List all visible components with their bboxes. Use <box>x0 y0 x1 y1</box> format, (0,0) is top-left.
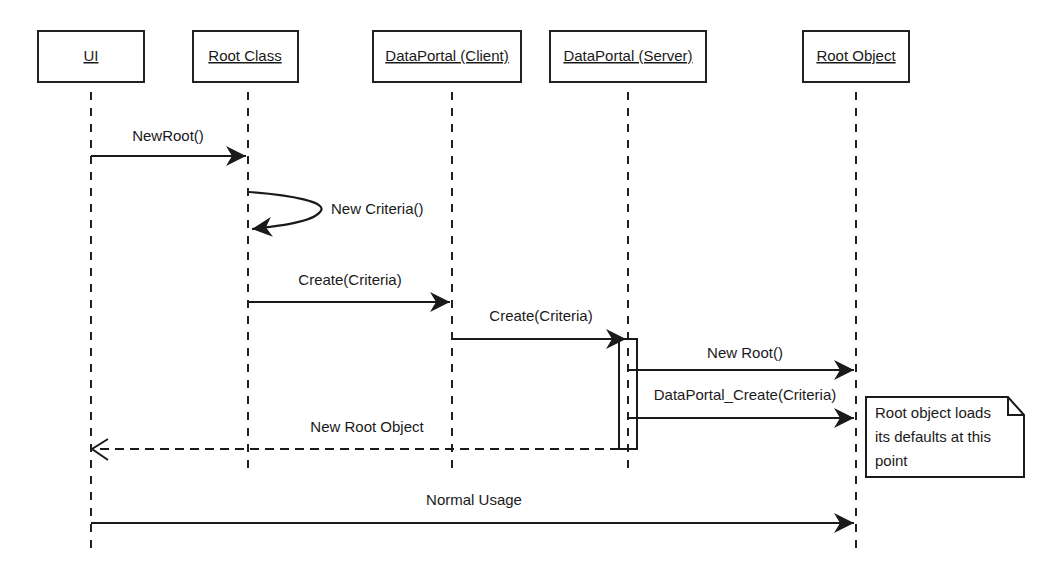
participant-dataportal-server: DataPortal (Server) <box>550 31 706 82</box>
note-line-1: Root object loads <box>875 404 991 421</box>
message-label: New Root() <box>707 344 783 361</box>
message-label: New Root Object <box>310 418 424 435</box>
message-create-criteria-server: Create(Criteria) <box>452 307 626 339</box>
message-label: New Criteria() <box>331 200 424 217</box>
participant-ui: UI <box>38 31 144 82</box>
message-return-new-root-object: New Root Object <box>92 418 619 460</box>
message-dataportal-create: DataPortal_Create(Criteria) <box>628 386 854 418</box>
message-label: Create(Criteria) <box>298 271 401 288</box>
message-label: Create(Criteria) <box>489 307 592 324</box>
note-root-object-defaults: Root object loads its defaults at this p… <box>866 397 1024 477</box>
note-line-3: point <box>875 452 908 469</box>
message-new-root: New Root() <box>628 344 854 370</box>
sequence-diagram: UI Root Class DataPortal (Client) DataPo… <box>0 0 1054 569</box>
participant-label: UI <box>84 47 99 64</box>
message-new-criteria: New Criteria() <box>249 192 424 229</box>
participant-root-class: Root Class <box>193 31 298 82</box>
message-label: NewRoot() <box>132 127 204 144</box>
message-normal-usage: Normal Usage <box>91 491 854 523</box>
participant-dataportal-client: DataPortal (Client) <box>373 31 521 82</box>
participant-label: Root Class <box>208 47 281 64</box>
message-label: DataPortal_Create(Criteria) <box>654 386 837 403</box>
message-create-criteria-client: Create(Criteria) <box>249 271 450 302</box>
participant-label: Root Object <box>816 47 896 64</box>
participant-label: DataPortal (Server) <box>563 47 692 64</box>
message-label: Normal Usage <box>426 491 522 508</box>
note-line-2: its defaults at this <box>875 428 991 445</box>
participant-root-object: Root Object <box>803 31 909 82</box>
participant-label: DataPortal (Client) <box>385 47 508 64</box>
message-newroot: NewRoot() <box>91 127 246 156</box>
